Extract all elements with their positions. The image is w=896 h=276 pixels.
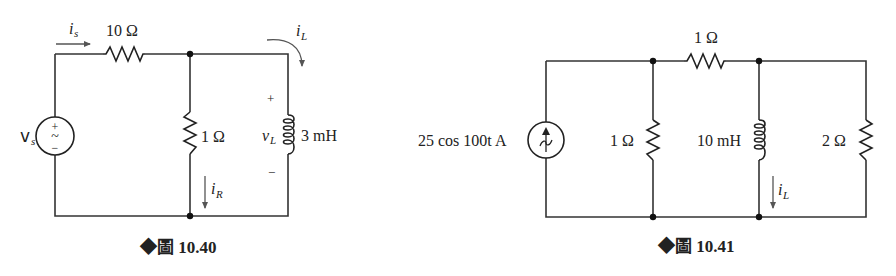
current-is-label: i (69, 20, 73, 37)
current-il-label: i (778, 181, 782, 198)
inductor-10mh (755, 120, 766, 160)
figure-10-40: + ~ − v s 10 Ω 1 Ω 3 mH i s i L + v L − … (20, 20, 337, 257)
vl-minus-sign: − (268, 165, 275, 180)
label-shunt-1-ohm: 1 Ω (610, 132, 634, 149)
current-il-arrow (267, 40, 302, 66)
junction-node (756, 214, 762, 220)
source-minus-sign: − (52, 141, 59, 155)
figure-10-41: 25 cos 100t A 1 Ω 1 Ω 10 mH 2 Ω i L ◆圖 1… (418, 29, 872, 256)
label-series-1-ohm: 1 Ω (694, 29, 718, 46)
junction-node (650, 214, 656, 220)
current-is-sub: s (74, 27, 78, 39)
vl-sub: L (269, 134, 276, 146)
label-2-ohm: 2 Ω (822, 132, 846, 149)
inductor-3mh (284, 115, 295, 154)
vl-label: v (262, 127, 270, 144)
resistor-10-ohm (103, 47, 145, 61)
wire-src-bottom (546, 158, 866, 217)
wire-left-bottom (55, 154, 288, 216)
resistor-1-ohm (184, 112, 196, 154)
junction-node-top (187, 51, 193, 57)
junction-node (756, 58, 762, 64)
resistor-2-ohm (860, 120, 872, 160)
current-il-sub: L (782, 189, 789, 201)
label-10mh: 10 mH (697, 132, 741, 149)
label-1-ohm: 1 Ω (201, 128, 225, 145)
junction-node-bottom (187, 213, 193, 219)
vl-plus-sign: + (267, 91, 274, 106)
current-il-sub: L (300, 30, 307, 42)
junction-node (650, 58, 656, 64)
source-label-v: v (20, 126, 30, 146)
circuit-figures: + ~ − v s 10 Ω 1 Ω 3 mH i s i L + v L − … (0, 0, 896, 276)
current-ir-label: i (211, 180, 215, 197)
label-3mh: 3 mH (301, 127, 337, 144)
resistor-shunt-1-ohm (647, 120, 659, 160)
label-10-ohm: 10 Ω (106, 22, 138, 39)
source-arrowhead-icon (542, 127, 550, 135)
current-ir-sub: R (215, 188, 223, 200)
resistor-series-1-ohm (684, 54, 726, 68)
current-il-label: i (296, 22, 300, 39)
source-label: 25 cos 100t A (418, 132, 507, 149)
wire-top-right (726, 61, 866, 120)
source-label-sub: s (31, 135, 35, 147)
figure-caption-10-40: ◆圖 10.40 (139, 237, 217, 257)
figure-caption-10-41: ◆圖 10.41 (657, 236, 735, 256)
